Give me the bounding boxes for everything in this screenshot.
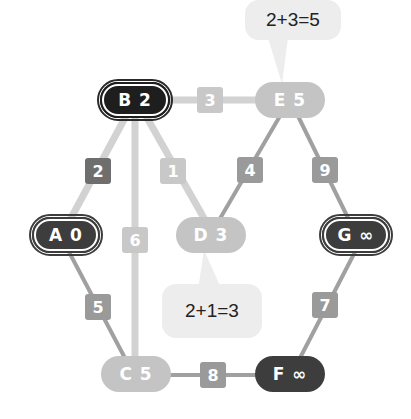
edge-weight-b-a: 2	[85, 158, 111, 184]
bubble-pointer-e	[268, 38, 288, 84]
node-c[interactable]: C 5	[101, 356, 171, 392]
node-a-ring	[29, 214, 103, 256]
node-d-label: D 3	[194, 225, 229, 245]
node-b-ring	[97, 79, 173, 121]
edge-weight-b-c: 6	[122, 227, 148, 253]
node-f[interactable]: F ∞	[255, 356, 325, 392]
node-c-label: C 5	[119, 364, 152, 384]
edge-weight-b-d: 1	[160, 158, 186, 184]
node-a-label: A 0	[49, 225, 83, 245]
node-g[interactable]: G ∞	[322, 217, 390, 253]
edge-weight-a-c: 5	[85, 294, 111, 320]
node-b[interactable]: B 2	[100, 82, 170, 118]
node-a[interactable]: A 0	[32, 217, 100, 253]
node-b-label: B 2	[118, 90, 152, 110]
node-g-ring	[319, 214, 393, 256]
edge-weight-e-d: 4	[237, 157, 263, 183]
node-e[interactable]: E 5	[255, 82, 325, 118]
node-e-label: E 5	[274, 90, 306, 110]
calc-bubble-d: 2+1=3	[162, 284, 262, 338]
calc-bubble-e: 2+3=5	[245, 0, 341, 40]
edge-weight-g-f: 7	[312, 292, 338, 318]
node-g-label: G ∞	[337, 225, 374, 245]
edge-weight-c-f: 8	[200, 362, 226, 388]
node-d[interactable]: D 3	[176, 217, 246, 253]
graph-edges	[0, 0, 411, 419]
edge-weight-b-e: 3	[197, 87, 223, 113]
edge-weight-e-g: 9	[312, 157, 338, 183]
node-f-label: F ∞	[273, 364, 308, 384]
